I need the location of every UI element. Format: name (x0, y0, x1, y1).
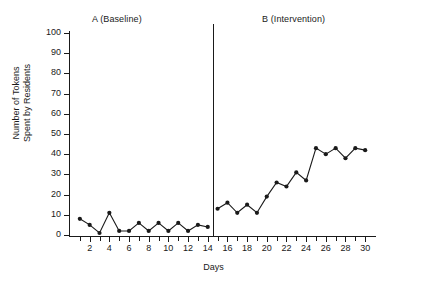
data-point-marker (225, 201, 229, 205)
data-point-marker (255, 211, 259, 215)
data-point-marker (275, 180, 279, 184)
data-point-marker (88, 223, 92, 227)
data-point-marker (314, 146, 318, 150)
data-point-marker (284, 184, 288, 188)
data-point-marker (245, 203, 249, 207)
data-point-marker (196, 223, 200, 227)
series-line (218, 148, 366, 213)
data-point-marker (334, 146, 338, 150)
data-point-marker (265, 195, 269, 199)
data-point-marker (206, 225, 210, 229)
data-point-marker (343, 156, 347, 160)
data-point-marker (215, 207, 219, 211)
data-point-marker (363, 148, 367, 152)
data-point-marker (304, 178, 308, 182)
data-point-marker (78, 217, 82, 221)
data-point-marker (117, 229, 121, 233)
data-point-marker (156, 221, 160, 225)
data-point-marker (353, 146, 357, 150)
data-series-layer (0, 0, 427, 285)
data-point-marker (235, 211, 239, 215)
data-point-marker (166, 229, 170, 233)
data-point-marker (147, 229, 151, 233)
data-point-marker (176, 221, 180, 225)
data-point-marker (294, 170, 298, 174)
chart-figure: A (Baseline) B (Intervention) Number of … (0, 0, 427, 285)
data-point-marker (127, 229, 131, 233)
data-point-marker (186, 229, 190, 233)
data-point-marker (137, 221, 141, 225)
data-point-marker (324, 152, 328, 156)
data-point-marker (97, 231, 101, 235)
data-point-marker (107, 211, 111, 215)
